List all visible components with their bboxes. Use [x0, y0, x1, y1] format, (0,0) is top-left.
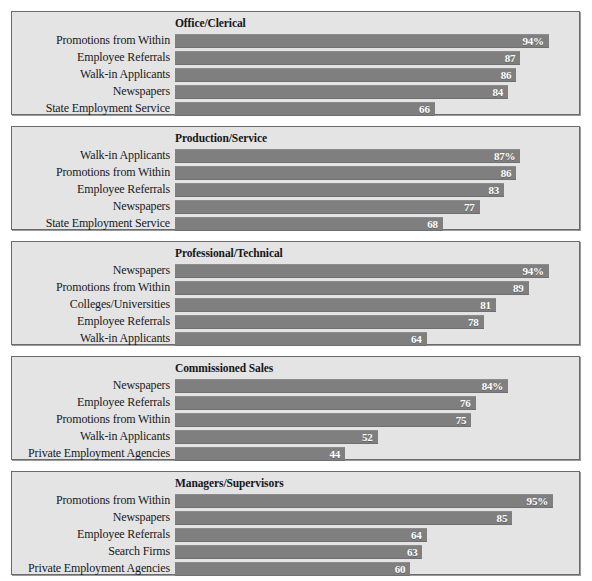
bar-value-label: 78	[468, 316, 484, 328]
chart-row: Employee Referrals64	[12, 527, 579, 544]
bar-value-label: 94%	[523, 35, 549, 47]
bar: 66	[175, 102, 435, 116]
bar: 64	[175, 332, 427, 346]
chart-row: Employee Referrals78	[12, 314, 579, 331]
chart-row: Walk-in Applicants52	[12, 429, 579, 446]
row-category-label: Walk-in Applicants	[80, 429, 170, 444]
bar-value-label: 76	[460, 397, 476, 409]
row-category-label: Promotions from Within	[56, 412, 170, 427]
bar-value-label: 87%	[494, 150, 520, 162]
chart-row: Walk-in Applicants64	[12, 331, 579, 348]
chart-row: Private Employment Agencies60	[12, 561, 579, 578]
chart-row: Walk-in Applicants86	[12, 67, 579, 84]
row-category-label: Private Employment Agencies	[28, 561, 170, 576]
bar-value-label: 60	[395, 563, 411, 575]
chart-panel: Office/ClericalPromotions from Within94%…	[11, 11, 580, 115]
bar-value-label: 94%	[523, 265, 549, 277]
chart-row: Newspapers94%	[12, 263, 579, 280]
row-category-label: Walk-in Applicants	[80, 148, 170, 163]
bar-value-label: 75	[456, 414, 472, 426]
panel-rows: Walk-in Applicants87%Promotions from Wit…	[12, 148, 579, 233]
bar-track: 77	[175, 200, 571, 214]
panel-rows: Promotions from Within95%Newspapers85Emp…	[12, 493, 579, 578]
bar-value-label: 64	[411, 529, 427, 541]
bar: 52	[175, 430, 378, 444]
bar-value-label: 64	[411, 333, 427, 345]
row-category-label: Newspapers	[113, 510, 170, 525]
bar-value-label: 84%	[482, 380, 508, 392]
chart-row: Employee Referrals76	[12, 395, 579, 412]
bar-track: 76	[175, 396, 571, 410]
bar: 84	[175, 85, 508, 99]
bar-track: 86	[175, 68, 571, 82]
chart-row: Employee Referrals83	[12, 182, 579, 199]
bar: 60	[175, 562, 410, 576]
bar: 83	[175, 183, 504, 197]
bar: 94%	[175, 34, 549, 48]
bar: 63	[175, 545, 422, 559]
panel-title: Managers/Supervisors	[175, 477, 284, 489]
row-category-label: Walk-in Applicants	[80, 331, 170, 346]
chart-row: Promotions from Within89	[12, 280, 579, 297]
bar-value-label: 84	[493, 86, 509, 98]
row-category-label: State Employment Service	[46, 216, 170, 231]
chart-row: Search Firms63	[12, 544, 579, 561]
chart-row: Walk-in Applicants87%	[12, 148, 579, 165]
bar-track: 44	[175, 447, 571, 461]
row-category-label: Newspapers	[113, 263, 170, 278]
row-category-label: Promotions from Within	[56, 33, 170, 48]
chart-row: Promotions from Within75	[12, 412, 579, 429]
row-category-label: Employee Referrals	[77, 182, 170, 197]
bar-value-label: 63	[407, 546, 423, 558]
chart-row: Promotions from Within94%	[12, 33, 579, 50]
bar-track: 60	[175, 562, 571, 576]
bar-track: 83	[175, 183, 571, 197]
row-category-label: Employee Referrals	[77, 527, 170, 542]
chart-row: State Employment Service68	[12, 216, 579, 233]
row-category-label: Promotions from Within	[56, 165, 170, 180]
row-category-label: Employee Referrals	[77, 314, 170, 329]
row-category-label: Walk-in Applicants	[80, 67, 170, 82]
chart-row: Employee Referrals87	[12, 50, 579, 67]
bar-track: 64	[175, 528, 571, 542]
bar: 86	[175, 166, 516, 180]
bar-track: 81	[175, 298, 571, 312]
bar: 81	[175, 298, 496, 312]
chart-panel: Commissioned SalesNewspapers84%Employee …	[11, 356, 580, 460]
chart-row: Private Employment Agencies44	[12, 446, 579, 463]
bar-track: 78	[175, 315, 571, 329]
bar-track: 84	[175, 85, 571, 99]
bar-track: 64	[175, 332, 571, 346]
panel-rows: Newspapers84%Employee Referrals76Promoti…	[12, 378, 579, 463]
row-category-label: Newspapers	[113, 378, 170, 393]
chart-row: Newspapers84%	[12, 378, 579, 395]
row-category-label: Newspapers	[113, 199, 170, 214]
bar: 87%	[175, 149, 520, 163]
bar: 64	[175, 528, 427, 542]
bar-value-label: 87	[505, 52, 521, 64]
chart-panel: Production/ServiceWalk-in Applicants87%P…	[11, 126, 580, 230]
row-category-label: Promotions from Within	[56, 280, 170, 295]
row-category-label: Private Employment Agencies	[28, 446, 170, 461]
bar: 44	[175, 447, 345, 461]
bar-value-label: 44	[329, 448, 345, 460]
panel-title: Commissioned Sales	[175, 362, 273, 374]
chart-row: State Employment Service66	[12, 101, 579, 118]
bar-value-label: 89	[513, 282, 529, 294]
bar: 85	[175, 511, 512, 525]
chart-row: Promotions from Within86	[12, 165, 579, 182]
bar-track: 87	[175, 51, 571, 65]
bar: 89	[175, 281, 529, 295]
row-category-label: Colleges/Universities	[70, 297, 170, 312]
bar-value-label: 81	[480, 299, 496, 311]
bar-value-label: 85	[497, 512, 513, 524]
bar-track: 94%	[175, 34, 571, 48]
bar-track: 52	[175, 430, 571, 444]
bar: 77	[175, 200, 480, 214]
chart-row: Newspapers77	[12, 199, 579, 216]
chart-row: Promotions from Within95%	[12, 493, 579, 510]
bar-track: 87%	[175, 149, 571, 163]
bar: 94%	[175, 264, 549, 278]
bar-track: 75	[175, 413, 571, 427]
bar-value-label: 95%	[527, 495, 553, 507]
